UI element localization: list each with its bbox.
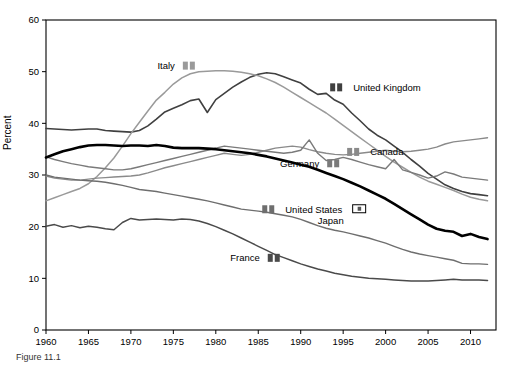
line-chart: 0102030405060 19601965197019751980198519… bbox=[0, 0, 514, 369]
x-tick-label: 1995 bbox=[333, 336, 354, 347]
y-tick-label: 40 bbox=[28, 118, 39, 129]
x-tick-label: 1980 bbox=[205, 336, 226, 347]
figure-caption: Figure 11.1 bbox=[16, 352, 61, 362]
series-label-united-states: United States bbox=[285, 204, 342, 215]
series-marker-germany bbox=[327, 159, 339, 167]
x-tick-label: 2005 bbox=[418, 336, 439, 347]
series-line-france bbox=[46, 218, 488, 281]
x-tick-label: 2010 bbox=[460, 336, 481, 347]
series-label-japan: Japan bbox=[318, 215, 344, 226]
x-tick-label: 1990 bbox=[290, 336, 311, 347]
series-lines bbox=[46, 71, 488, 281]
x-tick-label: 1965 bbox=[78, 336, 99, 347]
chart-canvas: 0102030405060 19601965197019751980198519… bbox=[0, 0, 514, 369]
x-tick-label: 2000 bbox=[375, 336, 396, 347]
x-tick-label: 1975 bbox=[163, 336, 184, 347]
plot-frame bbox=[46, 20, 496, 330]
x-axis-ticks: 1960196519701975198019851990199520002005… bbox=[35, 330, 481, 347]
series-label-france: France bbox=[230, 252, 260, 263]
series-marker-france bbox=[268, 254, 280, 262]
x-tick-label: 1960 bbox=[35, 336, 56, 347]
series-label-canada: Canada bbox=[370, 146, 404, 157]
y-tick-label: 10 bbox=[28, 273, 39, 284]
y-tick-label: 20 bbox=[28, 221, 39, 232]
series-label-united-kingdom: United Kingdom bbox=[353, 82, 421, 93]
x-tick-label: 1985 bbox=[248, 336, 269, 347]
series-label-germany: Germany bbox=[280, 158, 319, 169]
y-tick-label: 50 bbox=[28, 66, 39, 77]
y-axis-ticks: 0102030405060 bbox=[28, 14, 46, 335]
y-tick-label: 0 bbox=[34, 324, 39, 335]
series-marker-italy bbox=[183, 62, 195, 70]
series-label-italy: Italy bbox=[157, 60, 175, 71]
series-marker-united-kingdom bbox=[330, 83, 342, 91]
series-line-italy bbox=[46, 71, 488, 201]
x-tick-label: 1970 bbox=[120, 336, 141, 347]
figure-container: Percent 0102030405060 196019651970197519… bbox=[0, 0, 514, 369]
y-tick-label: 30 bbox=[28, 169, 39, 180]
y-tick-label: 60 bbox=[28, 14, 39, 25]
series-marker-japan bbox=[353, 205, 366, 213]
